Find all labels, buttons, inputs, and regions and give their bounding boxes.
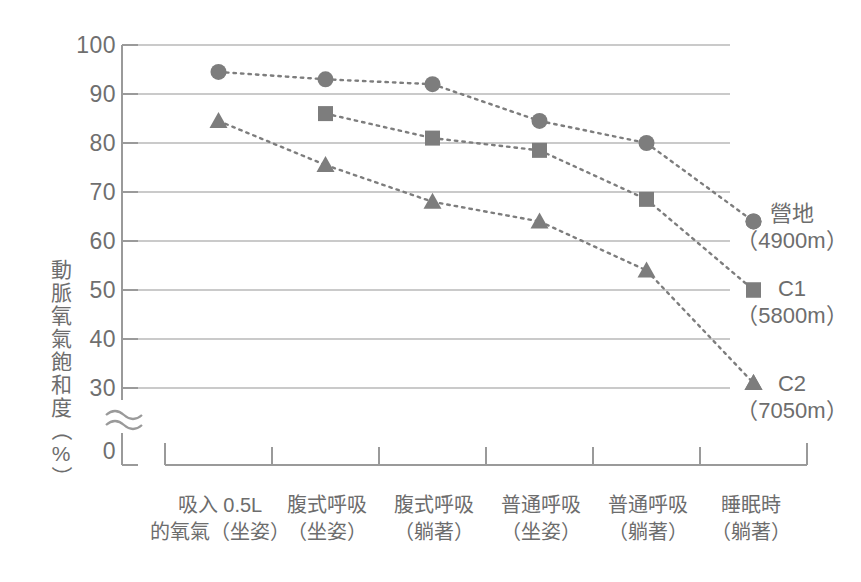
legend-entry-c2: C2 （7050m） xyxy=(726,370,858,424)
data-point-circle-3 xyxy=(532,113,548,129)
y-axis-title-char-6: 和 xyxy=(44,373,78,396)
x-axis xyxy=(165,443,807,465)
data-point-circle-0 xyxy=(211,64,227,80)
y-axis-title-char-5: 飽 xyxy=(44,350,78,373)
y-axis-title-char-1: 動 xyxy=(44,258,78,281)
data-point-square-3 xyxy=(532,143,547,158)
y-axis-title-close-paren: ） xyxy=(50,460,73,494)
y-tick-70: 70 xyxy=(58,179,116,206)
data-point-triangle-1 xyxy=(317,156,335,172)
y-axis-title-open-paren: （ xyxy=(50,414,73,448)
series-0-segment-3 xyxy=(540,121,647,143)
x-label-0-line1: 吸入 0.5L xyxy=(178,494,262,516)
series-0-segment-2 xyxy=(433,84,540,121)
y-tick-100: 100 xyxy=(58,32,116,59)
series-1-segment-0 xyxy=(326,114,433,139)
data-point-square-2 xyxy=(425,131,440,146)
x-label-5: 睡眠時 （躺著） xyxy=(676,492,826,546)
axis-break-symbol xyxy=(106,411,142,429)
x-label-5-line2: （躺著） xyxy=(676,519,826,546)
data-point-square-1 xyxy=(318,106,333,121)
legend-entry-c2-alt: （7050m） xyxy=(726,397,858,424)
x-label-5-line1: 睡眠時 xyxy=(721,494,781,516)
series-0-segment-0 xyxy=(219,72,326,79)
y-tick-90: 90 xyxy=(58,81,116,108)
data-point-circle-2 xyxy=(425,76,441,92)
x-label-3-line1: 普通呼吸 xyxy=(501,494,581,516)
x-label-2-line1: 腹式呼吸 xyxy=(394,494,474,516)
data-point-circle-4 xyxy=(639,135,655,151)
series-0-segment-1 xyxy=(326,79,433,84)
y-axis xyxy=(122,45,138,465)
y-axis-title: 動 脈 氧 氣 飽 和 度 （ % ） xyxy=(44,258,78,488)
series-2-segment-3 xyxy=(540,221,647,270)
y-tick-80: 80 xyxy=(58,130,116,157)
series-1-segment-1 xyxy=(433,138,540,150)
legend-entry-c1: C1 （5800m） xyxy=(726,275,858,329)
data-point-circle-1 xyxy=(318,71,334,87)
x-label-1-line1: 腹式呼吸 xyxy=(287,494,367,516)
legend-entry-c2-name: C2 xyxy=(726,370,858,397)
series-connector-lines xyxy=(219,72,754,383)
gridlines xyxy=(122,45,730,388)
series-2-segment-1 xyxy=(326,165,433,202)
series-data-markers xyxy=(210,64,763,390)
legend-entry-camp-name: 營地 xyxy=(726,200,858,227)
y-axis-title-char-4: 氣 xyxy=(44,327,78,350)
y-tick-60: 60 xyxy=(58,228,116,255)
data-point-triangle-3 xyxy=(531,212,549,228)
y-axis-title-char-3: 氧 xyxy=(44,304,78,327)
data-point-triangle-4 xyxy=(638,261,656,277)
legend-entry-camp-alt: （4900m） xyxy=(726,227,858,254)
data-point-triangle-0 xyxy=(210,112,228,128)
y-axis-title-char-2: 脈 xyxy=(44,281,78,304)
legend-entry-c1-name: C1 xyxy=(726,275,858,302)
chart-container: 100 90 80 70 60 50 40 30 0 動 脈 氧 氣 飽 和 度… xyxy=(0,0,861,582)
legend-entry-camp: 營地 （4900m） xyxy=(726,200,858,254)
legend-entry-c1-alt: （5800m） xyxy=(726,302,858,329)
series-2-segment-2 xyxy=(433,202,540,222)
data-point-square-4 xyxy=(639,192,654,207)
